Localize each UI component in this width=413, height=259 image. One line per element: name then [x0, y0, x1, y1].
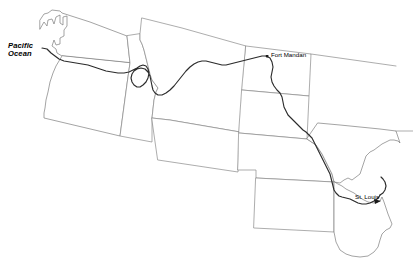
label-pacific-ocean: Pacific Ocean — [8, 42, 33, 58]
map-canvas — [0, 0, 413, 259]
state-oregon — [44, 56, 130, 136]
state-montana — [140, 18, 246, 132]
route-mississippi — [380, 177, 386, 195]
state-minnesota-edge — [311, 54, 396, 66]
label-pacific-ocean-line2: Ocean — [8, 50, 33, 58]
state-south-dakota — [239, 90, 309, 139]
label-fort-mandan: Fort Mandan — [271, 52, 306, 59]
fort-mandan-dot — [266, 55, 268, 57]
state-kansas — [254, 178, 334, 232]
map-container: Pacific Ocean Fort Mandan St. Louis — [0, 0, 413, 259]
label-st-louis: St. Louis — [355, 194, 379, 201]
